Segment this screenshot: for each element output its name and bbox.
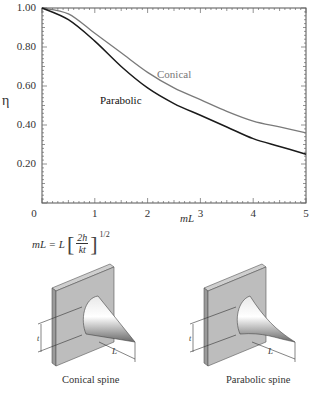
plot-frame (42, 8, 306, 203)
formula-exponent: 1/2 (100, 230, 110, 239)
y-tick-label: 1.00 (2, 1, 36, 13)
y-axis-title: η (2, 93, 9, 109)
x-tick-label: 3 (192, 207, 208, 219)
parabolic-spine-caption: Parabolic spine (226, 374, 290, 385)
length-label: L (267, 346, 273, 356)
parabolic-spine-illustration: t L (174, 258, 304, 368)
thickness-label: t (189, 334, 192, 343)
formula-numerator: 2h (76, 232, 88, 244)
left-bracket: [ (67, 233, 74, 255)
conical-spine-illustration: t L (14, 258, 144, 368)
conical-label: Conical (157, 68, 191, 80)
right-bracket: ] (90, 233, 97, 255)
thickness-label: t (37, 334, 40, 343)
conical-spine-caption: Conical spine (62, 374, 119, 385)
y-tick-label: 0.80 (2, 40, 36, 52)
parabolic-label: Parabolic (100, 94, 142, 106)
x-tick-label: 0 (26, 207, 42, 219)
efficiency-chart (0, 0, 316, 230)
length-label: L (111, 346, 117, 356)
x-tick-label: 1 (87, 207, 103, 219)
x-tick-label: 2 (140, 207, 156, 219)
x-tick-label: 4 (245, 207, 261, 219)
x-tick-label: 5 (298, 207, 314, 219)
x-axis-title: mL (180, 212, 194, 224)
formula-denominator: kt (79, 244, 86, 255)
y-tick-label: 0.20 (2, 157, 36, 169)
axis-ticks (42, 8, 306, 203)
ml-formula: mL = L [ 2h kt ] 1/2 (32, 232, 110, 255)
y-tick-label: 0.60 (2, 79, 36, 91)
formula-lhs: mL = L (32, 238, 65, 250)
y-tick-label: 0.40 (2, 118, 36, 130)
formula-fraction: 2h kt (76, 232, 88, 255)
parabolic-curve (42, 8, 306, 154)
